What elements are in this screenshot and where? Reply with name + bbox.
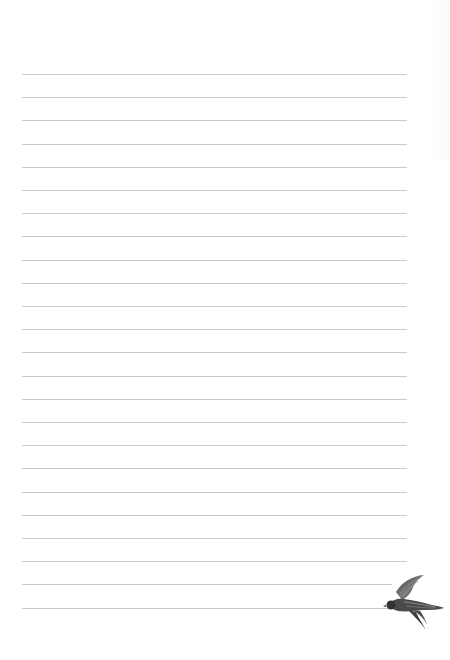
ruled-line [22,399,407,400]
ruled-line [22,468,407,469]
ruled-line [22,329,407,330]
ruled-line [22,561,407,562]
ruled-line [22,97,407,98]
ruled-line [22,608,388,609]
ruled-line [22,190,407,191]
page-corner-shadow [430,0,450,160]
ruled-line [22,515,407,516]
ruled-line [22,144,407,145]
ruled-line [22,445,407,446]
ruled-line [22,74,407,75]
ruled-line [22,236,407,237]
ruled-line [22,352,407,353]
ruled-line [22,422,407,423]
swallow-bird-icon [382,570,446,634]
ruled-line [22,538,407,539]
ruled-line [22,306,407,307]
ruled-line [22,376,407,377]
ruled-line [22,213,407,214]
ruled-line [22,167,407,168]
ruled-line [22,260,407,261]
ruled-line [22,584,392,585]
ruled-line [22,120,407,121]
ruled-line [22,492,407,493]
notepaper-page [0,0,450,660]
ruled-line [22,283,407,284]
